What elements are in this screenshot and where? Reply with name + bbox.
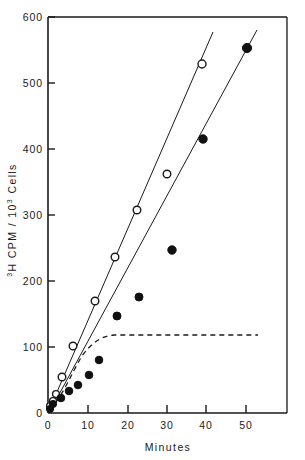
y-tick-label-200: 200 xyxy=(23,275,43,287)
chart-svg: 600 500 400 300 200 100 0 0 10 20 30 40 … xyxy=(0,0,305,460)
x-tick-label-50: 50 xyxy=(239,419,252,431)
data-point-filled xyxy=(49,400,56,407)
x-ticks-group xyxy=(88,405,246,413)
data-point-filled xyxy=(135,293,143,301)
x-tick-label-30: 30 xyxy=(160,419,173,431)
data-point-open xyxy=(163,170,171,178)
open-series-trend-line xyxy=(50,32,213,408)
x-tick-label-10: 10 xyxy=(81,419,94,431)
y-axis-title-main-2: Cells xyxy=(6,163,18,198)
y-axis-title: 3H CPM / 103 Cells xyxy=(6,163,18,277)
data-point-filled xyxy=(113,312,121,320)
x-tick-label-20: 20 xyxy=(121,419,134,431)
data-point-filled xyxy=(65,387,73,395)
y-tick-label-500: 500 xyxy=(23,77,43,89)
data-point-open xyxy=(198,60,206,68)
y-tick-label-100: 100 xyxy=(23,341,43,353)
data-point-filled xyxy=(199,135,207,143)
open-circle-markers xyxy=(47,60,206,409)
data-point-filled xyxy=(74,381,82,389)
y-tick-label-400: 400 xyxy=(23,143,43,155)
y-tick-label-300: 300 xyxy=(23,209,43,221)
data-point-filled xyxy=(168,246,176,254)
x-tick-labels-group: 0 10 20 30 40 50 xyxy=(45,419,253,431)
x-tick-label-40: 40 xyxy=(199,419,212,431)
y-tick-label-0: 0 xyxy=(36,407,43,419)
data-point-open xyxy=(111,253,119,261)
data-point-filled xyxy=(242,43,251,52)
x-axis-title: Minutes xyxy=(145,441,192,453)
data-point-filled xyxy=(57,394,65,402)
x-tick-label-0: 0 xyxy=(45,419,52,431)
data-point-open xyxy=(133,206,141,214)
dashed-saturation-curve xyxy=(50,335,258,409)
y-tick-labels-group: 600 500 400 300 200 100 0 xyxy=(23,11,43,419)
data-point-filled xyxy=(95,356,103,364)
chart-figure: 600 500 400 300 200 100 0 0 10 20 30 40 … xyxy=(0,0,305,460)
data-point-open xyxy=(58,373,66,381)
y-ticks-group xyxy=(48,17,55,347)
data-point-filled xyxy=(85,371,93,379)
y-tick-label-600: 600 xyxy=(23,11,43,23)
svg-text:3H CPM / 103 Cells: 3H CPM / 103 Cells xyxy=(6,163,18,277)
data-point-open xyxy=(91,297,99,305)
data-point-open xyxy=(69,342,77,350)
y-axis-title-main-1: H CPM / 10 xyxy=(6,203,18,271)
filled-series-trend-line xyxy=(50,30,257,411)
